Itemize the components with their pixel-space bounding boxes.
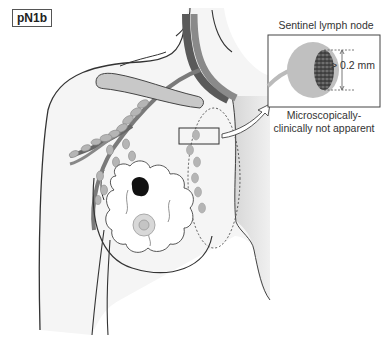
diagram-canvas: pN1b Sentinel lymph node > 0.2 mm Micros… <box>0 0 386 349</box>
inset-caption-line1: Microscopically- <box>266 109 382 122</box>
stage-label: pN1b <box>12 9 52 27</box>
sentinel-lymph-node-inset <box>268 35 380 107</box>
inset-caption: Microscopically- clinically not apparent <box>266 109 382 135</box>
anatomy-illustration <box>0 0 386 349</box>
measurement-label: > 0.2 mm <box>331 59 375 71</box>
inset-caption-line2: clinically not apparent <box>266 122 382 135</box>
inset-title: Sentinel lymph node <box>270 19 382 31</box>
